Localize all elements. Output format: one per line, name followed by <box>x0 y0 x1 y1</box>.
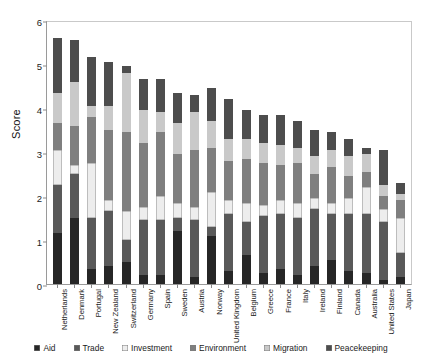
bar-segment-environment[interactable] <box>104 130 113 200</box>
stacked-bar[interactable] <box>70 40 79 284</box>
bar-segment-peacekeeping[interactable] <box>293 121 302 147</box>
bar-segment-migration[interactable] <box>70 82 79 126</box>
bar-segment-migration[interactable] <box>327 150 336 168</box>
bar-segment-investment[interactable] <box>207 192 216 227</box>
bar-segment-peacekeeping[interactable] <box>379 150 388 185</box>
bar-segment-migration[interactable] <box>276 145 285 165</box>
bar-segment-environment[interactable] <box>53 123 62 149</box>
legend-item-trade[interactable]: Trade <box>74 343 105 353</box>
bar-segment-migration[interactable] <box>344 156 353 176</box>
bar-segment-trade[interactable] <box>70 174 79 218</box>
bar-segment-environment[interactable] <box>122 132 131 211</box>
legend-item-aid[interactable]: Aid <box>34 343 55 353</box>
bar-segment-peacekeeping[interactable] <box>122 66 131 73</box>
bar-segment-investment[interactable] <box>327 203 336 214</box>
bar-segment-investment[interactable] <box>190 207 199 220</box>
bar-segment-peacekeeping[interactable] <box>362 148 371 155</box>
legend-item-peacekeeping[interactable]: Peacekeeping <box>326 343 388 353</box>
bar-segment-environment[interactable] <box>396 200 405 218</box>
bar-segment-environment[interactable] <box>344 176 353 198</box>
bar-segment-migration[interactable] <box>396 194 405 201</box>
bar-segment-investment[interactable] <box>87 163 96 218</box>
stacked-bar[interactable] <box>259 115 268 284</box>
bar-segment-migration[interactable] <box>224 139 233 161</box>
bar-segment-environment[interactable] <box>362 172 371 187</box>
bar-segment-migration[interactable] <box>190 112 199 149</box>
legend-item-environment[interactable]: Environment <box>190 343 246 353</box>
bar-segment-investment[interactable] <box>70 165 79 174</box>
bar-segment-peacekeeping[interactable] <box>104 62 113 106</box>
bar-segment-migration[interactable] <box>156 112 165 132</box>
bar-segment-migration[interactable] <box>87 106 96 117</box>
bar-segment-peacekeeping[interactable] <box>87 57 96 105</box>
bar-segment-peacekeeping[interactable] <box>190 95 199 113</box>
stacked-bar[interactable] <box>207 88 216 284</box>
legend-item-migration[interactable]: Migration <box>264 343 307 353</box>
bar-segment-peacekeeping[interactable] <box>224 99 233 139</box>
bar-segment-peacekeeping[interactable] <box>344 139 353 157</box>
bar-segment-trade[interactable] <box>242 222 251 255</box>
bar-segment-migration[interactable] <box>104 106 113 130</box>
bar-segment-investment[interactable] <box>242 203 251 223</box>
bar-segment-investment[interactable] <box>293 203 302 218</box>
stacked-bar[interactable] <box>139 79 148 284</box>
stacked-bar[interactable] <box>190 95 199 284</box>
bar-segment-investment[interactable] <box>362 187 371 213</box>
bar-segment-investment[interactable] <box>156 196 165 220</box>
bar-segment-peacekeeping[interactable] <box>396 183 405 194</box>
bar-segment-migration[interactable] <box>259 143 268 163</box>
bar-segment-investment[interactable] <box>53 150 62 185</box>
bar-segment-trade[interactable] <box>156 220 165 275</box>
bar-segment-investment[interactable] <box>139 207 148 220</box>
bar-segment-migration[interactable] <box>242 139 251 159</box>
bar-segment-environment[interactable] <box>379 196 388 209</box>
stacked-bar[interactable] <box>310 130 319 284</box>
bar-segment-trade[interactable] <box>53 185 62 233</box>
bar-segment-peacekeeping[interactable] <box>327 132 336 150</box>
stacked-bar[interactable] <box>276 115 285 284</box>
legend-item-investment[interactable]: Investment <box>122 343 172 353</box>
bar-segment-migration[interactable] <box>53 93 62 124</box>
bar-segment-environment[interactable] <box>242 159 251 203</box>
bar-segment-environment[interactable] <box>293 163 302 203</box>
bar-segment-peacekeeping[interactable] <box>276 115 285 146</box>
bar-segment-environment[interactable] <box>259 163 268 205</box>
bar-segment-peacekeeping[interactable] <box>259 115 268 144</box>
stacked-bar[interactable] <box>293 121 302 284</box>
bar-segment-trade[interactable] <box>293 218 302 275</box>
bar-segment-migration[interactable] <box>379 185 388 196</box>
bar-segment-investment[interactable] <box>379 209 388 222</box>
bar-segment-environment[interactable] <box>327 167 336 202</box>
bar-segment-environment[interactable] <box>70 126 79 166</box>
bar-segment-environment[interactable] <box>276 165 285 200</box>
bar-segment-peacekeeping[interactable] <box>139 79 148 110</box>
bar-segment-peacekeeping[interactable] <box>173 93 182 124</box>
stacked-bar[interactable] <box>87 57 96 284</box>
bar-segment-peacekeeping[interactable] <box>70 40 79 82</box>
bar-segment-environment[interactable] <box>173 154 182 202</box>
bar-segment-environment[interactable] <box>156 132 165 196</box>
bar-segment-peacekeeping[interactable] <box>207 88 216 121</box>
bar-segment-migration[interactable] <box>173 123 182 154</box>
stacked-bar[interactable] <box>156 79 165 284</box>
bar-segment-migration[interactable] <box>122 73 131 132</box>
bar-segment-environment[interactable] <box>224 161 233 201</box>
stacked-bar[interactable] <box>53 38 62 284</box>
bar-segment-trade[interactable] <box>327 214 336 260</box>
bar-segment-investment[interactable] <box>396 218 405 253</box>
bar-segment-environment[interactable] <box>87 117 96 163</box>
bar-segment-investment[interactable] <box>344 198 353 213</box>
bar-segment-investment[interactable] <box>310 198 319 209</box>
bar-segment-migration[interactable] <box>293 148 302 163</box>
bar-segment-migration[interactable] <box>207 121 216 147</box>
bar-segment-peacekeeping[interactable] <box>242 110 251 139</box>
bar-segment-trade[interactable] <box>310 209 319 266</box>
bar-segment-investment[interactable] <box>276 200 285 213</box>
bar-segment-migration[interactable] <box>139 110 148 143</box>
bar-segment-peacekeeping[interactable] <box>53 38 62 93</box>
bar-segment-migration[interactable] <box>362 154 371 172</box>
bar-segment-investment[interactable] <box>224 200 233 213</box>
bar-segment-environment[interactable] <box>207 148 216 192</box>
bar-segment-investment[interactable] <box>104 200 113 211</box>
bar-segment-trade[interactable] <box>207 227 216 236</box>
